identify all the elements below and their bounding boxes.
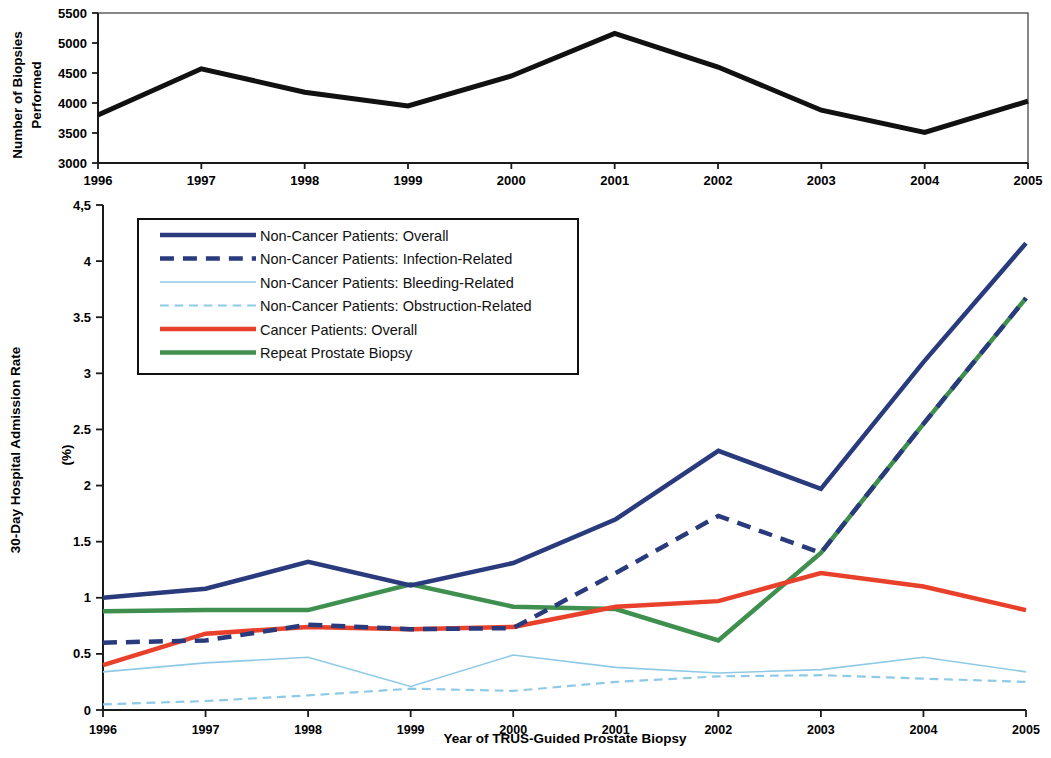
top-y-tick-label: 3500 — [58, 126, 87, 141]
bottom-y-tick-label: 0 — [84, 703, 91, 718]
top-y-title-line2: Performed — [29, 61, 44, 129]
bottom-x-tick-label: 2002 — [704, 723, 732, 737]
top-chart-series-group — [98, 33, 1028, 132]
legend-label-non-cancer-patients-obstruction-related: Non-Cancer Patients: Obstruction-Related — [260, 298, 532, 314]
top-x-tick-label: 1998 — [290, 173, 319, 188]
bottom-y-tick-label: 0.5 — [73, 646, 91, 661]
top-x-tick-label: 2000 — [497, 173, 526, 188]
bottom-y-tick-label: 1.5 — [73, 534, 91, 549]
bottom-chart-y-axis-title: 30-Day Hospital Admission Rate (%) — [8, 346, 74, 553]
top-x-tick-label: 1996 — [84, 173, 113, 188]
legend-label-non-cancer-patients-bleeding-related: Non-Cancer Patients: Bleeding-Related — [260, 275, 514, 291]
top-x-tick-label: 2002 — [704, 173, 733, 188]
bottom-x-tick-label: 1996 — [89, 723, 117, 737]
top-y-tick-label: 5500 — [58, 6, 87, 21]
bottom-y-tick-label: 4,5 — [73, 200, 91, 213]
top-chart-y-ticks: 300035004000450050005500 — [58, 6, 98, 171]
top-y-tick-label: 3000 — [58, 156, 87, 171]
bottom-x-tick-label: 2005 — [1012, 723, 1040, 737]
bottom-y-tick-label: 3 — [84, 366, 91, 381]
legend-label-non-cancer-patients-infection-related: Non-Cancer Patients: Infection-Related — [260, 251, 512, 267]
bottom-y-tick-label: 1 — [84, 590, 91, 605]
top-x-tick-label: 2004 — [910, 173, 940, 188]
bottom-x-tick-label: 1997 — [192, 723, 220, 737]
bottom-chart-line-cancer-patients-overall — [103, 573, 1026, 665]
bottom-x-tick-label: 2004 — [910, 723, 938, 737]
bottom-chart-line-non-cancer-patients-obstruction-related — [103, 675, 1026, 704]
legend-label-repeat-prostate-biopsy: Repeat Prostate Biopsy — [260, 345, 413, 361]
top-y-tick-label: 4500 — [58, 66, 87, 81]
bottom-y-tick-label: 2 — [84, 478, 91, 493]
top-chart-y-axis-title: Number of Biopsies Performed — [10, 31, 44, 159]
top-x-tick-label: 1999 — [394, 173, 423, 188]
bottom-x-tick-label: 2003 — [807, 723, 835, 737]
legend-label-cancer-patients-overall: Cancer Patients: Overall — [260, 322, 417, 338]
top-x-tick-label: 2005 — [1014, 173, 1043, 188]
top-y-title-line1: Number of Biopsies — [10, 31, 25, 159]
bottom-y-tick-label: 4 — [84, 254, 92, 269]
bottom-x-tick-label: 1999 — [397, 723, 425, 737]
top-chart-frame — [98, 13, 1028, 163]
top-chart-x-ticks: 1996199719981999200020012002200320042005 — [84, 163, 1043, 188]
top-chart-plot-area — [98, 13, 1028, 163]
bottom-y-title-line2: (%) — [59, 445, 74, 466]
top-chart-line-biopsy-count — [98, 33, 1028, 132]
top-x-tick-label: 2001 — [600, 173, 629, 188]
bottom-x-tick-label: 1998 — [294, 723, 322, 737]
top-y-tick-label: 5000 — [58, 36, 87, 51]
top-x-tick-label: 2003 — [807, 173, 836, 188]
bottom-y-tick-label: 3.5 — [73, 310, 91, 325]
bottom-chart-x-axis-title: Year of TRUS-Guided Prostate Biopsy — [443, 731, 687, 746]
legend-label-non-cancer-patients-overall: Non-Cancer Patients: Overall — [260, 228, 449, 244]
bottom-chart-line-non-cancer-patients-bleeding-related — [103, 655, 1026, 686]
figure-container: Number of Biopsies Performed 30003500400… — [0, 0, 1051, 758]
top-x-tick-label: 1997 — [187, 173, 216, 188]
bottom-y-tick-label: 2.5 — [73, 422, 91, 437]
bottom-chart-y-ticks: 00.511.522.533.544,5 — [73, 200, 103, 718]
chart-legend: Non-Cancer Patients: OverallNon-Cancer P… — [138, 219, 578, 374]
biopsy-count-chart: Number of Biopsies Performed 30003500400… — [0, 0, 1051, 200]
admission-rate-chart: 30-Day Hospital Admission Rate (%) 00.51… — [0, 200, 1051, 758]
bottom-y-title-line1: 30-Day Hospital Admission Rate — [8, 346, 23, 553]
top-y-tick-label: 4000 — [58, 96, 87, 111]
